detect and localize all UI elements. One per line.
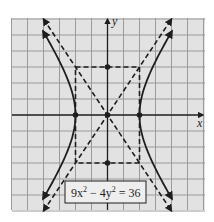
- hyperbola-graph: y x 9x2 − 4y2 = 36: [0, 0, 214, 222]
- y-axis-label: y: [111, 14, 118, 28]
- equation-text: 9x2 − 4y2 = 36: [71, 185, 141, 200]
- x-axis-label: x: [196, 116, 203, 130]
- equation-label: 9x2 − 4y2 = 36: [65, 181, 146, 203]
